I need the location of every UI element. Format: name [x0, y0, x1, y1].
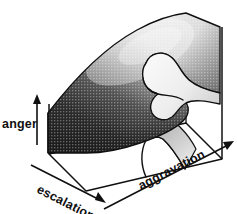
up-right-arrow-icon — [223, 141, 234, 150]
down-right-arrow-icon — [95, 192, 106, 203]
anger-axis-label: anger — [2, 117, 37, 131]
anger-axis: anger — [2, 94, 41, 145]
cusp-diagram-canvas: anger escalation aggravation — [0, 0, 237, 214]
up-arrow-icon — [33, 94, 41, 104]
cusp-catastrophe-diagram: anger escalation aggravation — [0, 0, 237, 214]
